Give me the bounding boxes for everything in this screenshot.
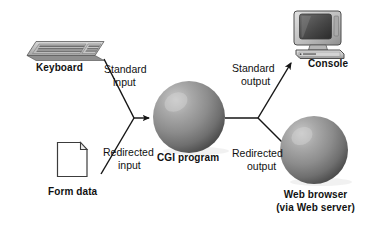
cgi-flow-diagram: Keyboard Standard input Form data Redire… — [0, 0, 366, 227]
redirected-output-label-line1: Redirected — [232, 148, 283, 159]
keyboard-label: Keyboard — [36, 63, 83, 74]
cgi-program-sphere-icon — [153, 81, 229, 155]
standard-output-label-line1: Standard — [232, 63, 275, 74]
keyboard-icon — [27, 42, 104, 61]
cgi-program-label: CGI program — [157, 153, 219, 164]
form-data-label: Form data — [48, 187, 97, 198]
standard-output-label-line2: output — [241, 76, 270, 87]
redirected-input-label-line2: input — [118, 160, 141, 171]
standard-input-label-line1: Standard — [104, 64, 147, 75]
redirected-output-label-line2: output — [247, 161, 276, 172]
standard-input-label-line2: input — [113, 77, 136, 88]
web-browser-sphere-icon — [280, 116, 352, 186]
web-browser-label-line1: Web browser — [273, 190, 358, 201]
web-browser-label-line2: (via Web server) — [267, 203, 364, 214]
computer-monitor-icon — [294, 11, 344, 59]
document-icon — [58, 143, 88, 177]
redirected-input-label-line1: Redirected — [103, 147, 154, 158]
console-label: Console — [308, 59, 348, 70]
